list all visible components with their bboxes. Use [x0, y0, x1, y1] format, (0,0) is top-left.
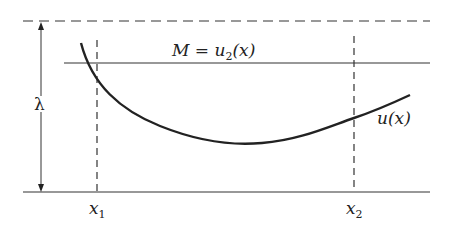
x2-label: x2 — [346, 198, 363, 221]
diagram-canvas: λ M = u2(x) u(x) x1 x2 — [0, 0, 450, 227]
u-curve-label: u(x) — [377, 108, 411, 128]
lambda-label: λ — [34, 94, 45, 114]
x1-label: x1 — [89, 198, 106, 221]
m-label: M = u2(x) — [171, 40, 255, 63]
